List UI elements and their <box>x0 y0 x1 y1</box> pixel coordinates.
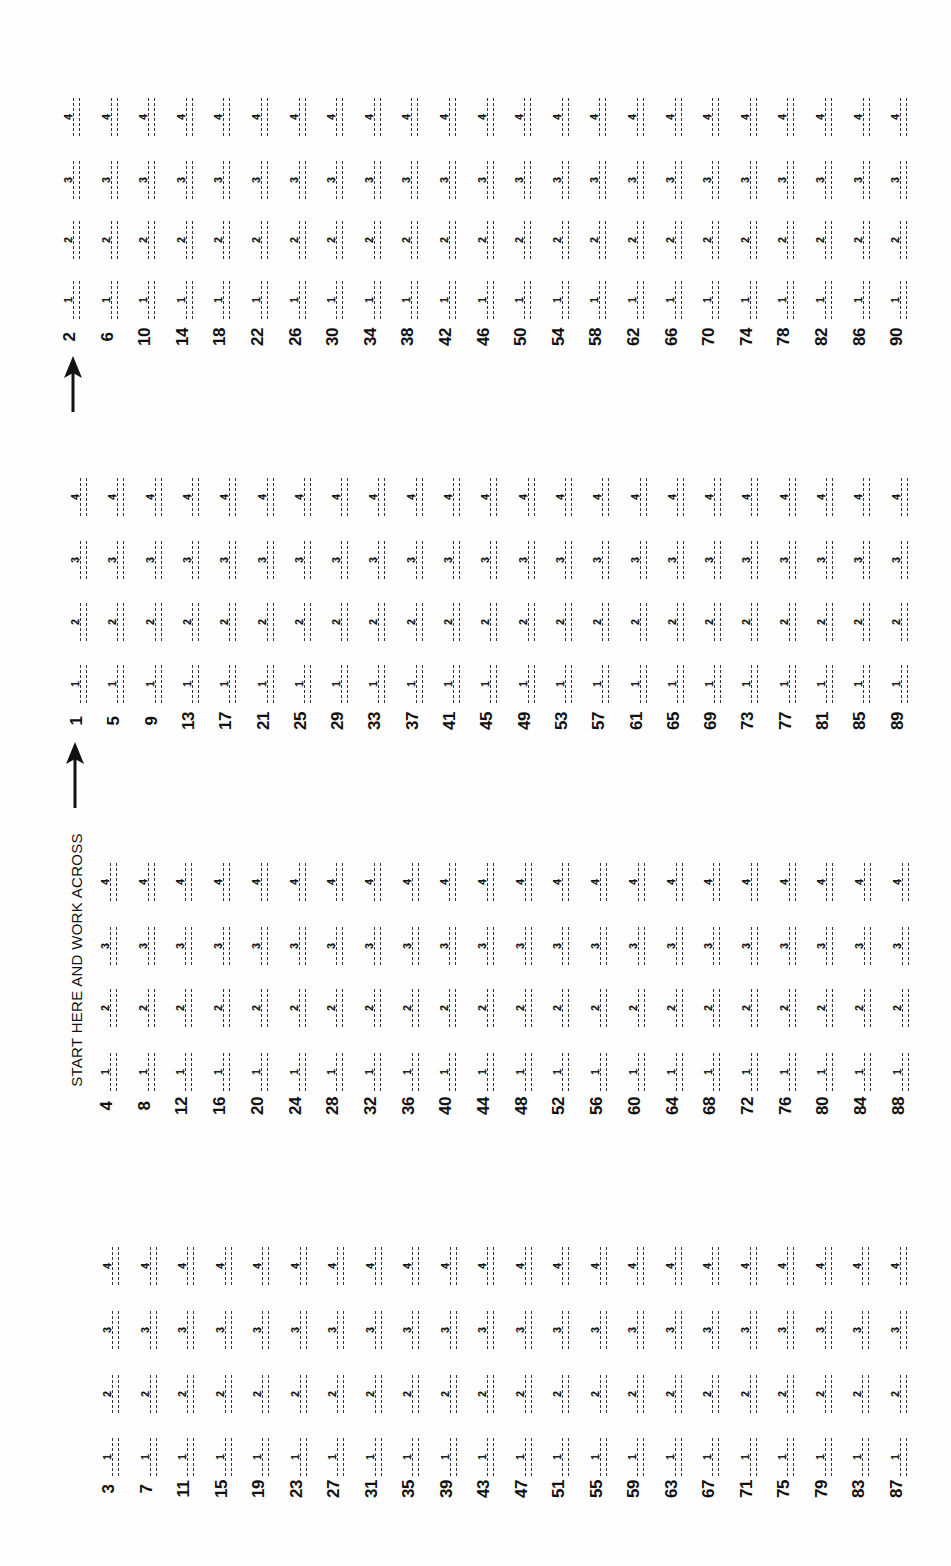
answer-bubble-q72-choice-1[interactable]: 1 <box>740 1050 766 1094</box>
answer-bubble-q43-choice-4[interactable]: 4 <box>476 1244 502 1288</box>
answer-bubble-q8-choice-4[interactable]: 4 <box>137 860 163 904</box>
answer-bubble-q62-choice-2[interactable]: 2 <box>626 218 652 262</box>
answer-bubble-q89-choice-3[interactable]: 3 <box>890 538 916 582</box>
answer-bubble-q60-choice-4[interactable]: 4 <box>627 860 653 904</box>
answer-bubble-q79-choice-3[interactable]: 3 <box>814 1308 840 1352</box>
answer-bubble-q21-choice-1[interactable]: 1 <box>256 662 282 706</box>
answer-bubble-q72-choice-4[interactable]: 4 <box>740 860 766 904</box>
answer-bubble-q55-choice-3[interactable]: 3 <box>589 1308 615 1352</box>
answer-bubble-q49-choice-1[interactable]: 1 <box>517 662 543 706</box>
answer-bubble-q52-choice-3[interactable]: 3 <box>551 924 577 968</box>
answer-bubble-q45-choice-3[interactable]: 3 <box>479 538 505 582</box>
answer-bubble-q17-choice-2[interactable]: 2 <box>218 600 244 644</box>
answer-bubble-q40-choice-2[interactable]: 2 <box>438 986 464 1030</box>
answer-bubble-q60-choice-3[interactable]: 3 <box>627 924 653 968</box>
answer-bubble-q31-choice-2[interactable]: 2 <box>364 1372 390 1416</box>
answer-bubble-q68-choice-2[interactable]: 2 <box>702 986 728 1030</box>
answer-bubble-q75-choice-4[interactable]: 4 <box>776 1244 802 1288</box>
answer-bubble-q49-choice-2[interactable]: 2 <box>517 600 543 644</box>
answer-bubble-q22-choice-1[interactable]: 1 <box>250 278 276 322</box>
answer-bubble-q2-choice-3[interactable]: 3 <box>62 158 88 202</box>
answer-bubble-q65-choice-3[interactable]: 3 <box>666 538 692 582</box>
answer-bubble-q81-choice-4[interactable]: 4 <box>815 475 841 519</box>
answer-bubble-q69-choice-2[interactable]: 2 <box>703 600 729 644</box>
answer-bubble-q59-choice-4[interactable]: 4 <box>626 1244 652 1288</box>
answer-bubble-q84-choice-2[interactable]: 2 <box>853 986 879 1030</box>
answer-bubble-q77-choice-2[interactable]: 2 <box>778 600 804 644</box>
answer-bubble-q83-choice-4[interactable]: 4 <box>851 1244 877 1288</box>
answer-bubble-q66-choice-4[interactable]: 4 <box>664 95 690 139</box>
answer-bubble-q25-choice-1[interactable]: 1 <box>293 662 319 706</box>
answer-bubble-q74-choice-3[interactable]: 3 <box>739 158 765 202</box>
answer-bubble-q62-choice-3[interactable]: 3 <box>626 158 652 202</box>
answer-bubble-q50-choice-1[interactable]: 1 <box>513 278 539 322</box>
answer-bubble-q52-choice-2[interactable]: 2 <box>551 986 577 1030</box>
answer-bubble-q23-choice-3[interactable]: 3 <box>289 1308 315 1352</box>
answer-bubble-q54-choice-2[interactable]: 2 <box>551 218 577 262</box>
answer-bubble-q4-choice-4[interactable]: 4 <box>99 860 125 904</box>
answer-bubble-q32-choice-4[interactable]: 4 <box>363 860 389 904</box>
answer-bubble-q51-choice-4[interactable]: 4 <box>551 1244 577 1288</box>
answer-bubble-q43-choice-1[interactable]: 1 <box>476 1435 502 1479</box>
answer-bubble-q26-choice-4[interactable]: 4 <box>288 95 314 139</box>
answer-bubble-q44-choice-3[interactable]: 3 <box>476 924 502 968</box>
answer-bubble-q71-choice-2[interactable]: 2 <box>739 1372 765 1416</box>
answer-bubble-q15-choice-1[interactable]: 1 <box>214 1435 240 1479</box>
answer-bubble-q35-choice-3[interactable]: 3 <box>401 1308 427 1352</box>
answer-bubble-q59-choice-3[interactable]: 3 <box>626 1308 652 1352</box>
answer-bubble-q77-choice-3[interactable]: 3 <box>778 538 804 582</box>
answer-bubble-q27-choice-4[interactable]: 4 <box>326 1244 352 1288</box>
answer-bubble-q36-choice-4[interactable]: 4 <box>401 860 427 904</box>
answer-bubble-q78-choice-1[interactable]: 1 <box>776 278 802 322</box>
answer-bubble-q5-choice-4[interactable]: 4 <box>106 475 132 519</box>
answer-bubble-q85-choice-2[interactable]: 2 <box>852 600 878 644</box>
answer-bubble-q49-choice-3[interactable]: 3 <box>517 538 543 582</box>
answer-bubble-q40-choice-1[interactable]: 1 <box>438 1050 464 1094</box>
answer-bubble-q51-choice-3[interactable]: 3 <box>551 1308 577 1352</box>
answer-bubble-q3-choice-4[interactable]: 4 <box>101 1244 127 1288</box>
answer-bubble-q85-choice-4[interactable]: 4 <box>852 475 878 519</box>
answer-bubble-q76-choice-2[interactable]: 2 <box>778 986 804 1030</box>
answer-bubble-q41-choice-2[interactable]: 2 <box>442 600 468 644</box>
answer-bubble-q55-choice-1[interactable]: 1 <box>589 1435 615 1479</box>
answer-bubble-q58-choice-3[interactable]: 3 <box>588 158 614 202</box>
answer-bubble-q75-choice-3[interactable]: 3 <box>776 1308 802 1352</box>
answer-bubble-q43-choice-3[interactable]: 3 <box>476 1308 502 1352</box>
answer-bubble-q78-choice-3[interactable]: 3 <box>776 158 802 202</box>
answer-bubble-q20-choice-1[interactable]: 1 <box>250 1050 276 1094</box>
answer-bubble-q7-choice-3[interactable]: 3 <box>139 1308 165 1352</box>
answer-bubble-q38-choice-3[interactable]: 3 <box>400 158 426 202</box>
answer-bubble-q70-choice-3[interactable]: 3 <box>701 158 727 202</box>
answer-bubble-q21-choice-2[interactable]: 2 <box>256 600 282 644</box>
answer-bubble-q15-choice-2[interactable]: 2 <box>214 1372 240 1416</box>
answer-bubble-q82-choice-4[interactable]: 4 <box>814 95 840 139</box>
answer-bubble-q50-choice-3[interactable]: 3 <box>513 158 539 202</box>
answer-bubble-q71-choice-3[interactable]: 3 <box>739 1308 765 1352</box>
answer-bubble-q89-choice-4[interactable]: 4 <box>890 475 916 519</box>
answer-bubble-q8-choice-3[interactable]: 3 <box>137 924 163 968</box>
answer-bubble-q37-choice-1[interactable]: 1 <box>405 662 431 706</box>
answer-bubble-q7-choice-2[interactable]: 2 <box>139 1372 165 1416</box>
answer-bubble-q81-choice-3[interactable]: 3 <box>815 538 841 582</box>
answer-bubble-q80-choice-3[interactable]: 3 <box>815 924 841 968</box>
answer-bubble-q63-choice-2[interactable]: 2 <box>664 1372 690 1416</box>
answer-bubble-q57-choice-2[interactable]: 2 <box>591 600 617 644</box>
answer-bubble-q73-choice-2[interactable]: 2 <box>740 600 766 644</box>
answer-bubble-q61-choice-1[interactable]: 1 <box>629 662 655 706</box>
answer-bubble-q33-choice-3[interactable]: 3 <box>367 538 393 582</box>
answer-bubble-q87-choice-1[interactable]: 1 <box>889 1435 915 1479</box>
answer-bubble-q53-choice-4[interactable]: 4 <box>554 475 580 519</box>
answer-bubble-q90-choice-2[interactable]: 2 <box>889 218 915 262</box>
answer-bubble-q7-choice-1[interactable]: 1 <box>139 1435 165 1479</box>
answer-bubble-q74-choice-1[interactable]: 1 <box>739 278 765 322</box>
answer-bubble-q55-choice-4[interactable]: 4 <box>589 1244 615 1288</box>
answer-bubble-q38-choice-2[interactable]: 2 <box>400 218 426 262</box>
answer-bubble-q1-choice-4[interactable]: 4 <box>69 475 95 519</box>
answer-bubble-q44-choice-1[interactable]: 1 <box>476 1050 502 1094</box>
answer-bubble-q20-choice-4[interactable]: 4 <box>250 860 276 904</box>
answer-bubble-q86-choice-4[interactable]: 4 <box>852 95 878 139</box>
answer-bubble-q35-choice-1[interactable]: 1 <box>401 1435 427 1479</box>
answer-bubble-q30-choice-2[interactable]: 2 <box>325 218 351 262</box>
answer-bubble-q3-choice-2[interactable]: 2 <box>101 1372 127 1416</box>
answer-bubble-q1-choice-2[interactable]: 2 <box>69 600 95 644</box>
